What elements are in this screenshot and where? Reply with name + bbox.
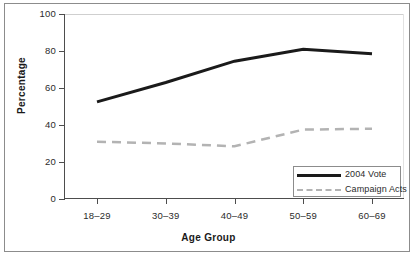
legend-label: 2004 Vote (345, 169, 386, 179)
figure-container: 020406080100 18–2930–3940–4950–5960–69 P… (0, 0, 417, 258)
legend-label: Campaign Acts (345, 184, 407, 194)
series-line-2004-vote (97, 49, 372, 102)
y-axis-tick-label: 100 (10, 9, 56, 19)
y-axis-tick (59, 199, 65, 200)
y-axis-title: Percentage (16, 41, 27, 131)
legend-item[interactable]: 2004 Vote (294, 167, 402, 182)
x-axis-title: Age Group (0, 232, 417, 243)
y-axis-tick-labels: 020406080100 (6, 0, 56, 258)
legend-swatch (297, 174, 341, 177)
data-series-group (97, 49, 372, 146)
x-axis-tick-label: 18–29 (62, 210, 132, 221)
x-axis-tick-label: 60–69 (337, 210, 407, 221)
legend-swatch (297, 189, 341, 191)
y-axis-tick-label: 20 (10, 157, 56, 167)
x-axis-tick-label: 40–49 (200, 210, 270, 221)
series-line-campaign-acts (97, 129, 372, 147)
chart-legend[interactable]: 2004 VoteCampaign Acts (293, 166, 401, 197)
x-axis-tick-label: 30–39 (131, 210, 201, 221)
y-axis-tick-label: 0 (10, 194, 56, 204)
legend-item[interactable]: Campaign Acts (294, 182, 402, 197)
x-axis-tick-label: 50–59 (268, 210, 338, 221)
